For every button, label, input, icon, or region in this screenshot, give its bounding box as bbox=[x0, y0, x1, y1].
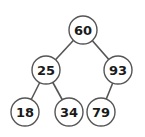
node-label: 93 bbox=[109, 63, 127, 78]
tree-node-18: 18 bbox=[11, 98, 39, 126]
node-label: 18 bbox=[16, 105, 34, 120]
node-label: 34 bbox=[60, 105, 78, 120]
binary-tree-diagram: 602593183479 bbox=[0, 0, 145, 137]
tree-node-93: 93 bbox=[104, 56, 132, 84]
tree-node-34: 34 bbox=[55, 98, 83, 126]
node-label: 25 bbox=[37, 63, 55, 78]
node-label: 60 bbox=[74, 23, 92, 38]
tree-node-79: 79 bbox=[87, 98, 115, 126]
tree-node-60: 60 bbox=[69, 16, 97, 44]
node-label: 79 bbox=[92, 105, 110, 120]
tree-node-25: 25 bbox=[32, 56, 60, 84]
tree-nodes: 602593183479 bbox=[11, 16, 132, 126]
